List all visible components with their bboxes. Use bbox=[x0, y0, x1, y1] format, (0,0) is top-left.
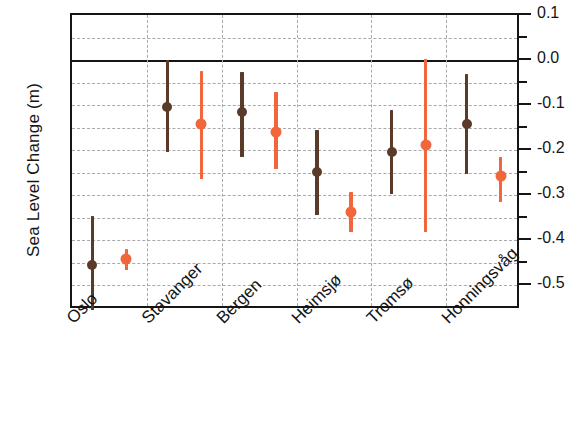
data-point bbox=[121, 253, 132, 264]
horizontal-gridline bbox=[72, 218, 517, 219]
y-tick-major bbox=[519, 13, 531, 15]
data-point bbox=[495, 171, 506, 182]
y-tick-label: 0.0 bbox=[537, 49, 559, 67]
horizontal-gridline bbox=[72, 285, 517, 286]
data-point bbox=[87, 260, 97, 270]
data-point bbox=[387, 147, 397, 157]
horizontal-gridline bbox=[72, 240, 517, 241]
y-tick-minor bbox=[519, 81, 527, 83]
y-tick-label: 0.1 bbox=[537, 4, 559, 22]
data-point bbox=[462, 119, 472, 129]
data-point bbox=[162, 102, 172, 112]
y-tick-major bbox=[519, 283, 531, 285]
y-tick-major bbox=[519, 103, 531, 105]
data-point bbox=[420, 140, 431, 151]
horizontal-gridline bbox=[72, 83, 517, 84]
y-tick-minor bbox=[519, 261, 527, 263]
vertical-gridline bbox=[371, 15, 372, 306]
horizontal-gridline bbox=[72, 38, 517, 39]
y-tick-label: -0.4 bbox=[537, 229, 565, 247]
y-tick-label: -0.2 bbox=[537, 139, 565, 157]
vertical-gridline bbox=[446, 15, 447, 306]
plot-area bbox=[70, 13, 519, 308]
data-point bbox=[271, 127, 282, 138]
data-point bbox=[196, 118, 207, 129]
horizontal-gridline bbox=[72, 105, 517, 106]
vertical-gridline bbox=[297, 15, 298, 306]
horizontal-gridline bbox=[72, 128, 517, 129]
vertical-gridline bbox=[222, 15, 223, 306]
y-tick-major bbox=[519, 238, 531, 240]
data-point bbox=[312, 167, 322, 177]
horizontal-gridline bbox=[72, 263, 517, 264]
y-tick-minor bbox=[519, 216, 527, 218]
y-tick-label: -0.1 bbox=[537, 94, 565, 112]
data-point bbox=[345, 207, 356, 218]
zero-reference-line bbox=[72, 60, 517, 62]
y-tick-minor bbox=[519, 126, 527, 128]
y-tick-major bbox=[519, 148, 531, 150]
horizontal-gridline bbox=[72, 173, 517, 174]
y-tick-label: -0.3 bbox=[537, 184, 565, 202]
y-axis-title: Sea Level Change (m) bbox=[24, 50, 44, 290]
data-point bbox=[237, 107, 247, 117]
y-tick-label: -0.5 bbox=[537, 274, 565, 292]
sea-level-change-chart: Sea Level Change (m) 0.10.0-0.1-0.2-0.3-… bbox=[0, 0, 578, 435]
y-tick-minor bbox=[519, 36, 527, 38]
horizontal-gridline bbox=[72, 150, 517, 151]
y-tick-major bbox=[519, 58, 531, 60]
y-tick-minor bbox=[519, 171, 527, 173]
y-tick-major bbox=[519, 193, 531, 195]
vertical-gridline bbox=[147, 15, 148, 306]
horizontal-gridline bbox=[72, 195, 517, 196]
